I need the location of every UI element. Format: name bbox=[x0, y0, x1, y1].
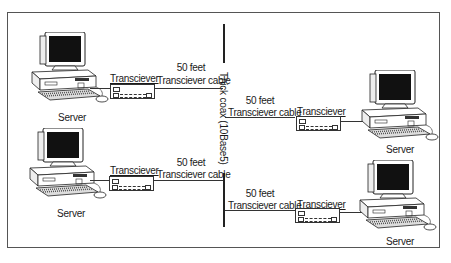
pc-to-transceiver-line bbox=[90, 88, 112, 89]
led-strip-icon bbox=[119, 186, 145, 190]
port-icon bbox=[298, 217, 304, 222]
pc-to-transceiver-line bbox=[90, 180, 110, 181]
led-strip-icon bbox=[120, 94, 146, 98]
port-icon bbox=[112, 185, 118, 190]
led-strip-icon bbox=[305, 218, 331, 222]
transceiver-icon bbox=[110, 84, 155, 99]
desktop-computer-icon bbox=[30, 32, 110, 107]
port-icon bbox=[113, 93, 119, 98]
server-label: Server bbox=[386, 236, 414, 247]
cable-length-label: 50 feet bbox=[226, 188, 294, 199]
cable-length-label: 50 feet bbox=[158, 62, 224, 73]
desktop-computer-icon bbox=[28, 128, 108, 203]
cable-label: Transciever cable bbox=[228, 107, 301, 118]
transceiver-cable-line bbox=[154, 180, 223, 181]
transceiver-label: Transciever bbox=[110, 165, 159, 176]
desktop-computer-icon bbox=[360, 70, 440, 145]
cable-label: Transciever cable bbox=[157, 169, 230, 180]
led-strip-icon bbox=[306, 126, 332, 130]
cable-label: Transciever cable bbox=[228, 200, 301, 211]
server-label: Server bbox=[58, 112, 86, 123]
port-icon bbox=[113, 87, 120, 92]
transceiver-icon bbox=[109, 176, 154, 191]
transceiver-icon bbox=[295, 208, 340, 223]
cable-length-label: 50 feet bbox=[158, 157, 224, 168]
port-icon bbox=[332, 125, 338, 130]
cable-length-label: 50 feet bbox=[226, 95, 294, 106]
port-icon bbox=[146, 93, 152, 98]
port-icon bbox=[112, 179, 119, 184]
port-icon bbox=[145, 185, 151, 190]
transceiver-icon bbox=[296, 116, 341, 131]
port-icon bbox=[298, 211, 305, 216]
server-label: Server bbox=[57, 208, 85, 219]
port-icon bbox=[299, 119, 306, 124]
port-icon bbox=[331, 217, 337, 222]
port-icon bbox=[299, 125, 305, 130]
transceiver-label: Transciever bbox=[110, 73, 159, 84]
desktop-computer-icon bbox=[358, 160, 438, 235]
transceiver-cable-line bbox=[155, 88, 223, 89]
server-label: Server bbox=[386, 144, 414, 155]
cable-label: Transciever cable bbox=[157, 75, 230, 86]
